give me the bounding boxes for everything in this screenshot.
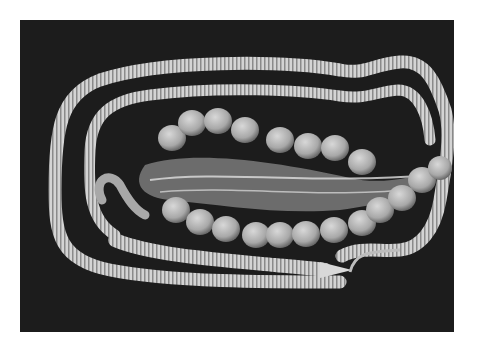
snake-illustration (20, 20, 454, 332)
snake-photo (20, 20, 454, 332)
oviduct (99, 178, 145, 215)
snake-body-lower (115, 240, 325, 270)
